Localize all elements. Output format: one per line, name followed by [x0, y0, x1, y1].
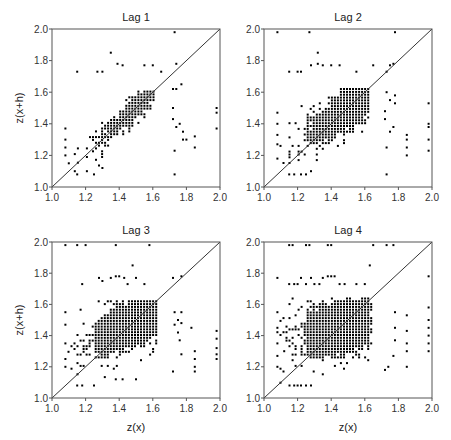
- data-point: [116, 356, 118, 358]
- y-tick-label: 1.0: [246, 182, 260, 193]
- data-point: [322, 125, 324, 127]
- data-point-outlier: [122, 64, 124, 66]
- data-point: [319, 317, 321, 319]
- x-tick-label: 1.6: [358, 192, 372, 203]
- data-point: [346, 323, 348, 325]
- data-point: [143, 342, 145, 344]
- data-point: [313, 340, 315, 342]
- data-point-outlier: [288, 244, 290, 246]
- data-point: [358, 102, 360, 104]
- data-point: [83, 348, 85, 350]
- data-point: [313, 128, 315, 130]
- data-point: [125, 320, 127, 322]
- data-point: [319, 145, 321, 147]
- data-point: [149, 309, 151, 311]
- data-point: [134, 300, 136, 302]
- x-tick-label: 1.6: [358, 403, 372, 414]
- data-point-outlier: [276, 134, 278, 136]
- data-point-outlier: [364, 283, 366, 285]
- data-point: [337, 345, 339, 347]
- data-point: [343, 142, 345, 144]
- data-point: [349, 114, 351, 116]
- data-point: [137, 122, 139, 124]
- x-tick-label: 2.0: [425, 192, 439, 203]
- data-point: [101, 354, 103, 356]
- data-point: [113, 312, 115, 314]
- data-point: [95, 340, 97, 342]
- data-point: [316, 122, 318, 124]
- y-tick-label: 1.0: [34, 393, 48, 404]
- data-point-outlier: [276, 123, 278, 125]
- data-point: [149, 334, 151, 336]
- data-point: [310, 108, 312, 110]
- data-point: [125, 125, 127, 127]
- data-point: [107, 365, 109, 367]
- data-point: [131, 326, 133, 328]
- data-point: [328, 348, 330, 350]
- data-point: [340, 337, 342, 339]
- reference-line-y-equals-x: [52, 29, 220, 187]
- data-point: [319, 108, 321, 110]
- data-point: [328, 134, 330, 136]
- data-point-outlier: [327, 275, 329, 277]
- y-tick-label: 1.6: [34, 87, 48, 98]
- data-point: [322, 134, 324, 136]
- data-point: [322, 312, 324, 314]
- data-point: [367, 99, 369, 101]
- data-point: [134, 102, 136, 104]
- data-point: [137, 337, 139, 339]
- data-point: [331, 345, 333, 347]
- data-point: [343, 368, 345, 370]
- data-point: [101, 337, 103, 339]
- data-point-outlier: [180, 83, 182, 85]
- data-point-outlier: [428, 123, 430, 125]
- data-point: [125, 334, 127, 336]
- data-point: [107, 323, 109, 325]
- data-point: [367, 111, 369, 113]
- data-point-outlier: [317, 63, 319, 65]
- data-point: [358, 122, 360, 124]
- data-point: [334, 136, 336, 138]
- data-point: [346, 105, 348, 107]
- data-point: [104, 145, 106, 147]
- data-point: [146, 317, 148, 319]
- data-point: [361, 342, 363, 344]
- data-point: [325, 342, 327, 344]
- data-point: [131, 119, 133, 121]
- data-point-outlier: [386, 91, 388, 93]
- data-point: [352, 122, 354, 124]
- data-point: [352, 320, 354, 322]
- data-point: [352, 131, 354, 133]
- data-point: [122, 326, 124, 328]
- data-point: [355, 354, 357, 356]
- data-point: [328, 312, 330, 314]
- data-point: [116, 312, 118, 314]
- data-point: [146, 105, 148, 107]
- data-point: [310, 345, 312, 347]
- data-point: [310, 340, 312, 342]
- data-point: [155, 314, 157, 316]
- data-point: [361, 348, 363, 350]
- data-point-outlier: [216, 347, 218, 349]
- data-point: [119, 342, 121, 344]
- data-point: [131, 102, 133, 104]
- data-point-outlier: [143, 64, 145, 66]
- data-point: [349, 306, 351, 308]
- data-point: [307, 317, 309, 319]
- data-point: [328, 102, 330, 104]
- data-point: [122, 113, 124, 115]
- data-point: [292, 359, 294, 361]
- data-point: [358, 320, 360, 322]
- data-point: [149, 91, 151, 93]
- data-point-outlier: [292, 244, 294, 246]
- data-point: [367, 345, 369, 347]
- data-point: [358, 312, 360, 314]
- data-point-outlier: [64, 358, 66, 360]
- data-point: [340, 312, 342, 314]
- data-point: [325, 142, 327, 144]
- data-point: [319, 328, 321, 330]
- data-point: [322, 128, 324, 130]
- data-point: [304, 326, 306, 328]
- data-point: [149, 342, 151, 344]
- data-point: [131, 306, 133, 308]
